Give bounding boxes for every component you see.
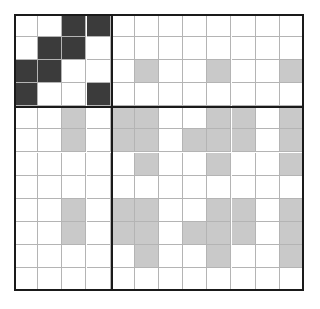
matrix-cell xyxy=(87,222,111,245)
matrix-grid-container xyxy=(14,14,304,291)
matrix-cell xyxy=(159,222,183,245)
matrix-cell xyxy=(87,14,111,37)
matrix-cell xyxy=(87,153,111,176)
matrix-cell xyxy=(87,199,111,222)
figure-canvas xyxy=(0,0,320,309)
matrix-cell xyxy=(256,153,280,176)
matrix-cell xyxy=(159,129,183,152)
matrix-cell xyxy=(111,83,135,106)
matrix-cell xyxy=(38,14,62,37)
matrix-cell xyxy=(135,199,159,222)
matrix-cell xyxy=(183,199,207,222)
matrix-cell xyxy=(159,106,183,129)
matrix-cell xyxy=(159,60,183,83)
matrix-cell xyxy=(280,222,304,245)
matrix-cell xyxy=(14,106,38,129)
matrix-cell xyxy=(62,153,86,176)
matrix-cell xyxy=(207,222,231,245)
matrix-cell xyxy=(183,14,207,37)
matrix-cell xyxy=(14,176,38,199)
matrix-cell xyxy=(256,199,280,222)
matrix-cell xyxy=(38,83,62,106)
matrix-cell xyxy=(280,199,304,222)
matrix-cell xyxy=(280,14,304,37)
matrix-cell xyxy=(280,129,304,152)
matrix-cell xyxy=(207,245,231,268)
matrix-cell xyxy=(232,83,256,106)
matrix-cell xyxy=(135,129,159,152)
matrix-cell xyxy=(87,83,111,106)
matrix-cell xyxy=(111,60,135,83)
matrix-cell xyxy=(87,268,111,291)
matrix-cell xyxy=(159,37,183,60)
matrix-cell xyxy=(232,60,256,83)
matrix-cell xyxy=(183,176,207,199)
matrix-cell xyxy=(135,83,159,106)
matrix-cell xyxy=(62,222,86,245)
matrix-cell xyxy=(14,83,38,106)
matrix-cell xyxy=(256,245,280,268)
matrix-cell xyxy=(38,268,62,291)
matrix-cell xyxy=(87,245,111,268)
matrix-cell xyxy=(256,106,280,129)
matrix-cell xyxy=(207,199,231,222)
matrix-cell xyxy=(207,60,231,83)
matrix-cell xyxy=(159,153,183,176)
matrix-cell xyxy=(159,268,183,291)
matrix-cell xyxy=(232,37,256,60)
matrix-cell xyxy=(87,60,111,83)
matrix-cell xyxy=(183,60,207,83)
matrix-cell xyxy=(183,37,207,60)
matrix-cell xyxy=(135,222,159,245)
matrix-cell xyxy=(256,222,280,245)
matrix-cell xyxy=(111,176,135,199)
matrix-cell xyxy=(207,37,231,60)
matrix-cell xyxy=(207,268,231,291)
matrix-cell xyxy=(232,153,256,176)
matrix-cell xyxy=(135,245,159,268)
matrix-cell xyxy=(111,222,135,245)
matrix-cell xyxy=(135,106,159,129)
matrix-cell xyxy=(14,199,38,222)
matrix-cell xyxy=(207,83,231,106)
matrix-cell xyxy=(135,176,159,199)
matrix-cell xyxy=(159,83,183,106)
matrix-cell xyxy=(38,199,62,222)
matrix-cell xyxy=(111,129,135,152)
matrix-cell xyxy=(14,14,38,37)
matrix-cell xyxy=(183,83,207,106)
matrix-cell xyxy=(159,199,183,222)
matrix-cell xyxy=(62,106,86,129)
matrix-cell xyxy=(232,129,256,152)
matrix-cell xyxy=(183,222,207,245)
matrix-cell xyxy=(38,60,62,83)
matrix-cell xyxy=(256,83,280,106)
matrix-cell xyxy=(111,268,135,291)
matrix-cell xyxy=(256,60,280,83)
matrix-cell xyxy=(14,222,38,245)
matrix-cell xyxy=(207,14,231,37)
matrix-cell xyxy=(280,153,304,176)
matrix-cell xyxy=(111,153,135,176)
matrix-cell xyxy=(111,106,135,129)
matrix-cell xyxy=(159,245,183,268)
matrix-cell xyxy=(207,176,231,199)
matrix-cell xyxy=(87,176,111,199)
matrix-cell xyxy=(111,199,135,222)
matrix-cell xyxy=(38,222,62,245)
matrix-cell xyxy=(159,14,183,37)
matrix-cell xyxy=(207,153,231,176)
matrix-cell xyxy=(38,106,62,129)
matrix-cell xyxy=(14,268,38,291)
matrix-cell xyxy=(232,199,256,222)
matrix-cell xyxy=(111,14,135,37)
matrix-cell xyxy=(62,14,86,37)
matrix-cell xyxy=(62,37,86,60)
matrix-cell xyxy=(87,37,111,60)
matrix-cell xyxy=(14,60,38,83)
matrix-cell xyxy=(135,60,159,83)
matrix-cell xyxy=(280,83,304,106)
matrix-cell xyxy=(232,222,256,245)
matrix-cell xyxy=(207,106,231,129)
matrix-cell xyxy=(87,129,111,152)
